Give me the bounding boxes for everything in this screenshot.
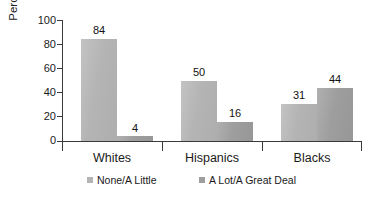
- value-label-blacks-b: 44: [317, 74, 353, 85]
- y-tick-mark-80: [57, 44, 62, 45]
- y-tick-label-40: 40: [30, 87, 56, 98]
- legend-item-none-a-little: None/A Little: [87, 174, 157, 186]
- legend-swatch-icon-series-a: [87, 177, 93, 183]
- value-label-hispanics-b: 16: [217, 108, 253, 119]
- y-tick-label-20: 20: [30, 111, 56, 122]
- y-tick-mark-40: [57, 92, 62, 93]
- bar-chart: Percentage Responding 100 80 60 40 20 0: [0, 0, 384, 200]
- bar-whites-none-a-little: [81, 39, 117, 141]
- x-axis-category-labels: Whites Hispanics Blacks: [62, 150, 362, 168]
- y-tick-mark-20: [57, 116, 62, 117]
- y-axis-tick-labels: 100 80 60 40 20 0: [28, 20, 56, 142]
- y-tick-mark-60: [57, 68, 62, 69]
- chart-legend: None/A Little A Lot/A Great Deal: [0, 174, 384, 192]
- bar-whites-a-lot-a-great-deal: [117, 136, 153, 141]
- category-label-whites: Whites: [62, 150, 162, 166]
- value-label-hispanics-a: 50: [181, 67, 217, 78]
- legend-item-a-lot-a-great-deal: A Lot/A Great Deal: [199, 174, 296, 186]
- value-label-whites-a: 84: [81, 25, 117, 36]
- y-tick-label-80: 80: [30, 39, 56, 50]
- y-tick-label-60: 60: [30, 63, 56, 74]
- value-label-whites-b: 4: [117, 123, 153, 134]
- y-axis-title: Percentage Responding: [2, 0, 24, 34]
- bar-hispanics-none-a-little: [181, 81, 217, 142]
- bar-blacks-none-a-little: [281, 104, 317, 142]
- y-axis-title-container: Percentage Responding: [2, 12, 24, 162]
- value-label-blacks-a: 31: [281, 90, 317, 101]
- category-label-blacks: Blacks: [262, 150, 362, 166]
- y-tick-label-100: 100: [30, 15, 56, 26]
- x-axis-line: [62, 141, 362, 142]
- bar-blacks-a-lot-a-great-deal: [317, 88, 353, 141]
- bar-hispanics-a-lot-a-great-deal: [217, 122, 253, 141]
- category-label-hispanics: Hispanics: [162, 150, 262, 166]
- legend-label-series-b: A Lot/A Great Deal: [209, 174, 296, 186]
- legend-swatch-icon-series-b: [199, 177, 205, 183]
- plot-area: 84 4 50 16 31 44: [62, 20, 362, 142]
- legend-label-series-a: None/A Little: [97, 174, 157, 186]
- y-tick-label-0: 0: [30, 135, 56, 146]
- y-tick-mark-100: [57, 20, 62, 21]
